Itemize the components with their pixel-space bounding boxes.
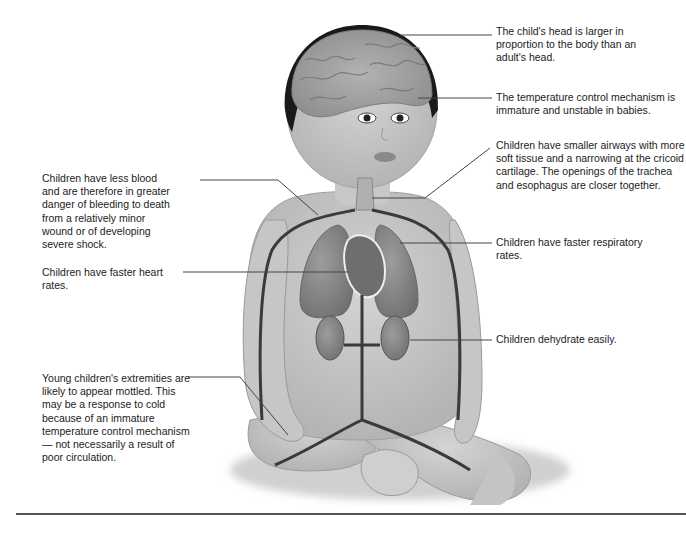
annotation-blood: Children have less blood and are therefo… [42,172,177,251]
annotation-head: The child's head is larger in proportion… [496,25,656,65]
bottom-rule [16,513,686,515]
annotation-respiratory: Children have faster respiratory rates. [496,236,646,262]
annotation-dehydrate: Children dehydrate easily. [496,333,686,346]
trachea [356,178,374,210]
left-kidney [316,316,344,360]
annotation-airways: Children have smaller airways with more … [496,139,686,192]
right-kidney [381,316,409,360]
annotation-extremities: Young children's extremities are likely … [42,372,192,464]
mouth [374,152,396,162]
annotation-heart: Children have faster heart rates. [42,266,182,292]
annotation-temperature: The temperature control mechanism is imm… [496,91,686,117]
